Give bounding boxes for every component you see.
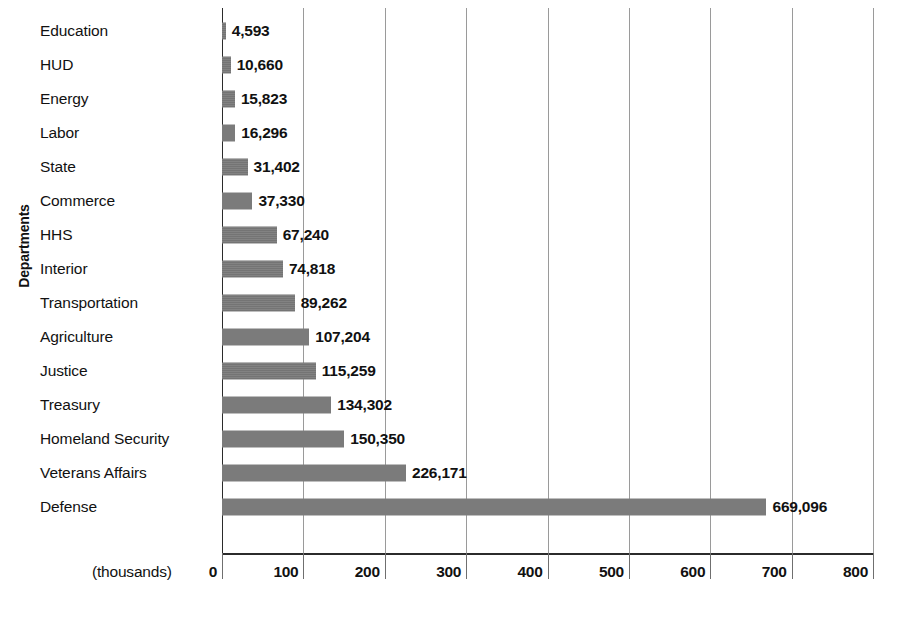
x-tick-label: 300	[436, 563, 461, 581]
bar-rows: Education4,593HUD10,660Energy15,823Labor…	[222, 8, 873, 553]
category-label-text: HHS	[40, 226, 72, 244]
bar-row: Homeland Security150,350	[222, 422, 873, 456]
x-tick-label: 500	[599, 563, 624, 581]
bar-value-label: 67,240	[283, 226, 329, 244]
bar-row: Treasury134,302	[222, 388, 873, 422]
category-label: Transportation	[40, 286, 212, 320]
bar-value-label: 150,350	[350, 430, 405, 448]
bar-value-label: 16,296	[241, 124, 287, 142]
category-label-text: Homeland Security	[40, 430, 169, 448]
bar	[222, 431, 344, 448]
x-tick-mark	[873, 553, 874, 579]
bar-chart: Departments Education4,593HUD10,660Energ…	[0, 0, 897, 619]
bar-value-label: 669,096	[772, 498, 827, 516]
category-label: Labor	[40, 116, 212, 150]
x-tick-mark	[629, 553, 630, 579]
bar-value-label: 37,330	[258, 192, 304, 210]
bar-row: HUD10,660	[222, 48, 873, 82]
category-label: Energy	[40, 82, 212, 116]
category-label-text: HUD	[40, 56, 73, 74]
x-tick-label: 400	[518, 563, 543, 581]
x-tick-mark	[303, 553, 304, 579]
category-label-text: Commerce	[40, 192, 115, 210]
bar-row: Agriculture107,204	[222, 320, 873, 354]
category-label: Homeland Security	[40, 422, 212, 456]
x-tick-mark	[792, 553, 793, 579]
category-label-text: Labor	[40, 124, 79, 142]
category-label: Veterans Affairs	[40, 456, 212, 490]
bar-value-label: 4,593	[232, 22, 270, 40]
y-axis-title: Departments	[16, 176, 32, 316]
bar-value-label: 134,302	[337, 396, 392, 414]
category-label-text: Interior	[40, 260, 87, 278]
category-label-text: Education	[40, 22, 108, 40]
bar	[222, 91, 235, 108]
category-label: HUD	[40, 48, 212, 82]
bar	[222, 159, 248, 176]
category-label: Agriculture	[40, 320, 212, 354]
bar	[222, 261, 283, 278]
x-tick-label: 100	[273, 563, 298, 581]
x-tick-label: 200	[355, 563, 380, 581]
category-label-text: Justice	[40, 362, 88, 380]
bar-row: Energy15,823	[222, 82, 873, 116]
bar-row: Commerce37,330	[222, 184, 873, 218]
category-label-text: Defense	[40, 498, 97, 516]
category-label: Justice	[40, 354, 212, 388]
category-label-text: State	[40, 158, 76, 176]
bar-row: Labor16,296	[222, 116, 873, 150]
x-tick-label: 800	[843, 563, 868, 581]
bar-row: Justice115,259	[222, 354, 873, 388]
bar-value-label: 115,259	[322, 362, 376, 380]
bar	[222, 227, 277, 244]
bar-value-label: 226,171	[412, 464, 467, 482]
bar-value-label: 74,818	[289, 260, 335, 278]
bar-value-label: 107,204	[315, 328, 370, 346]
category-label: State	[40, 150, 212, 184]
bar-row: Interior74,818	[222, 252, 873, 286]
bar	[222, 57, 231, 74]
x-axis-ticks: 0100200300400500600700800	[222, 553, 873, 583]
category-label: HHS	[40, 218, 212, 252]
bar-row: Defense669,096	[222, 490, 873, 524]
x-tick-label: 600	[680, 563, 705, 581]
bar-row: State31,402	[222, 150, 873, 184]
x-tick-mark	[385, 553, 386, 579]
category-label-text: Energy	[40, 90, 89, 108]
bar	[222, 193, 252, 210]
x-tick-label: 0	[209, 563, 217, 581]
category-label-text: Veterans Affairs	[40, 464, 147, 482]
bar	[222, 363, 316, 380]
x-axis-units-label: (thousands)	[92, 563, 172, 581]
x-tick-mark	[548, 553, 549, 579]
bar	[222, 499, 766, 516]
category-label: Interior	[40, 252, 212, 286]
category-label: Defense	[40, 490, 212, 524]
bar-row: Veterans Affairs226,171	[222, 456, 873, 490]
bar	[222, 125, 235, 142]
bar-value-label: 10,660	[237, 56, 283, 74]
bar	[222, 295, 295, 312]
gridline-800	[873, 8, 874, 553]
x-tick-label: 700	[762, 563, 787, 581]
x-tick-mark	[466, 553, 467, 579]
category-label: Treasury	[40, 388, 212, 422]
bar-row: Education4,593	[222, 14, 873, 48]
bar	[222, 465, 406, 482]
category-label-text: Agriculture	[40, 328, 113, 346]
bar	[222, 329, 309, 346]
category-label: Commerce	[40, 184, 212, 218]
bar-value-label: 31,402	[254, 158, 300, 176]
category-label: Education	[40, 14, 212, 48]
bar-row: HHS67,240	[222, 218, 873, 252]
bar-row: Transportation89,262	[222, 286, 873, 320]
bar-value-label: 89,262	[301, 294, 347, 312]
category-label-text: Transportation	[40, 294, 138, 312]
bar	[222, 397, 331, 414]
bar	[222, 23, 226, 40]
plot-area: Education4,593HUD10,660Energy15,823Labor…	[222, 8, 873, 553]
x-tick-mark	[222, 553, 223, 579]
bar-value-label: 15,823	[241, 90, 287, 108]
x-tick-mark	[710, 553, 711, 579]
category-label-text: Treasury	[40, 396, 100, 414]
